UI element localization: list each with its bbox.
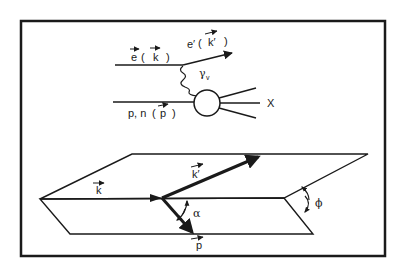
svg-text:v: v (206, 74, 210, 81)
final-state-line-top (219, 88, 256, 98)
svg-text:k′: k′ (208, 36, 216, 48)
svg-text:p: p (160, 107, 166, 119)
incoming-electron-label: e ( k ) (130, 48, 170, 63)
scattered-k-prime-vector (162, 157, 258, 198)
outgoing-electron-label: e′ ( k′ ) (187, 31, 228, 50)
svg-text:(: ( (152, 107, 156, 119)
incoming-k-label: k (93, 183, 104, 196)
hadron-p-vector (162, 198, 192, 232)
figure-frame (21, 21, 385, 256)
vector-arrow-p-top (158, 104, 168, 106)
svg-text:k′: k′ (192, 168, 200, 180)
svg-text:k: k (153, 51, 159, 63)
svg-text:γ: γ (199, 67, 206, 80)
virtual-photon-wavy-line (181, 66, 198, 96)
svg-text:(: ( (141, 51, 145, 63)
alpha-label: α (193, 207, 201, 220)
svg-text:e′: e′ (187, 38, 195, 50)
nucleon-label: p, n ( p ) (128, 104, 176, 119)
physics-diagram: e ( k ) e′ ( k′ ) γ v p, n ( p ) (0, 0, 408, 274)
svg-text:(: ( (198, 37, 202, 49)
phi-label: ϕ (315, 197, 323, 210)
phi-angle-arc-upper (302, 187, 309, 200)
incoming-k-arrowhead (150, 194, 162, 202)
final-state-label: X (267, 97, 275, 109)
outgoing-electron-arrow (183, 53, 232, 65)
svg-text:k: k (96, 184, 102, 196)
virtual-photon-label: γ v (199, 67, 210, 81)
final-state-line-bottom (219, 108, 256, 118)
svg-text:): ) (224, 35, 228, 47)
svg-text:e: e (131, 51, 137, 63)
svg-text:): ) (172, 107, 176, 119)
svg-text:p, n: p, n (128, 107, 146, 119)
vector-arrow-k-prime (205, 31, 217, 34)
hadronic-vertex-blob (194, 90, 220, 116)
scattered-k-prime-label: k′ (191, 164, 203, 180)
svg-text:p: p (196, 239, 202, 251)
hadron-p-label: p (191, 237, 203, 251)
phi-angle-arc (305, 196, 309, 212)
vector-arrow-k-prime-plane (191, 164, 203, 167)
feynman-diagram: e ( k ) e′ ( k′ ) γ v p, n ( p ) (113, 31, 275, 119)
kinematic-planes-diagram: k k′ p α ϕ (40, 154, 368, 251)
svg-text:): ) (166, 51, 170, 63)
scattering-plane (40, 154, 368, 199)
